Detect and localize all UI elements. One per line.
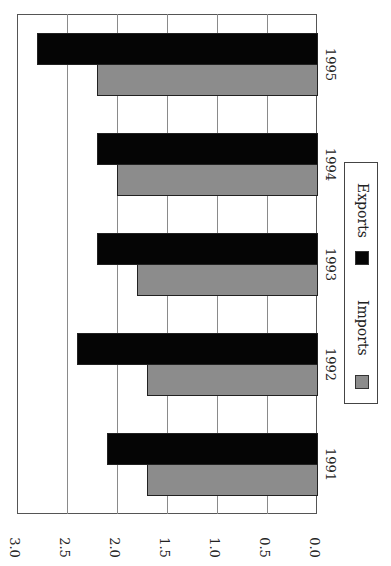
bar-imports-1992 — [147, 364, 318, 396]
bar-exports-1994 — [97, 133, 318, 165]
value-tick-label: 1.5 — [157, 537, 172, 558]
bar-imports-1991 — [147, 464, 318, 496]
category-label-1993: 1993 — [323, 248, 338, 281]
bar-exports-1993 — [97, 233, 318, 265]
category-label-1991: 1991 — [323, 448, 338, 481]
value-tick-label: 3.0 — [7, 537, 22, 558]
bar-imports-1994 — [117, 164, 318, 196]
bar-exports-1991 — [107, 433, 318, 465]
value-tick-label: 2.0 — [107, 537, 122, 558]
bar-imports-1995 — [97, 64, 318, 96]
legend: Imports Exports — [344, 162, 378, 404]
category-label-1995: 1995 — [323, 48, 338, 81]
category-label-1994: 1994 — [323, 148, 338, 181]
bar-chart: 0.00.51.01.52.02.53.0 199119921993199419… — [0, 0, 391, 566]
bar-imports-1993 — [137, 264, 318, 296]
legend-swatch-imports — [355, 375, 369, 389]
value-tick-label: 2.5 — [57, 537, 72, 558]
legend-swatch-exports — [355, 251, 369, 265]
legend-label-exports: Exports — [355, 183, 371, 238]
value-tick-label: 0.5 — [257, 537, 272, 558]
bar-exports-1995 — [37, 33, 318, 65]
legend-label-imports: Imports — [355, 300, 371, 356]
gridline — [67, 14, 68, 514]
value-tick-label: 0.0 — [307, 537, 322, 558]
bar-exports-1992 — [77, 333, 318, 365]
value-tick-label: 1.0 — [207, 537, 222, 558]
category-label-1992: 1992 — [323, 348, 338, 381]
